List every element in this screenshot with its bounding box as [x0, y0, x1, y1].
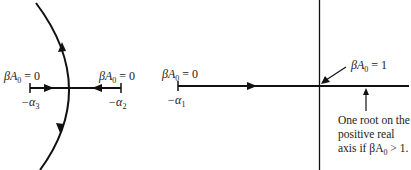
label-alpha1-gain: βA0 = 0	[162, 68, 198, 83]
note-line-1: One root on the	[338, 113, 410, 127]
positive-root-note: One root on the positive real axis if βA…	[338, 113, 410, 160]
arrow-right-icon	[247, 82, 257, 90]
root-locus-diagram: βA0 = 0 −α3 βA0 = 0 −α2 βA0 = 0 −α1 βA0 …	[0, 0, 411, 170]
note-line-2: positive real	[338, 127, 410, 141]
label-alpha2: −α2	[108, 96, 126, 111]
label-alpha3-gain: βA0 = 0	[4, 70, 40, 85]
complex-locus-branch	[36, 3, 69, 170]
label-alpha2-gain: βA0 = 0	[99, 70, 135, 85]
arrow-right-icon	[44, 84, 54, 92]
origin-pointer-line	[326, 67, 346, 80]
note-line-3: axis if βA0 > 1.	[338, 141, 410, 160]
label-origin-gain: βA0 = 1	[351, 59, 387, 74]
arrow-up-icon	[363, 88, 369, 95]
label-alpha1: −α1	[167, 94, 185, 109]
arrow-pointer-icon	[321, 76, 330, 84]
label-alpha3: −α3	[21, 96, 39, 111]
arrow-left-icon	[92, 84, 102, 92]
